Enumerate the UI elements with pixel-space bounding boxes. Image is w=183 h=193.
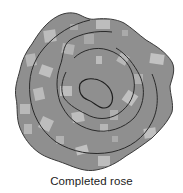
rose-illustration — [0, 0, 183, 172]
figure-caption: Completed rose — [0, 175, 183, 187]
rose-drawing — [0, 0, 183, 172]
